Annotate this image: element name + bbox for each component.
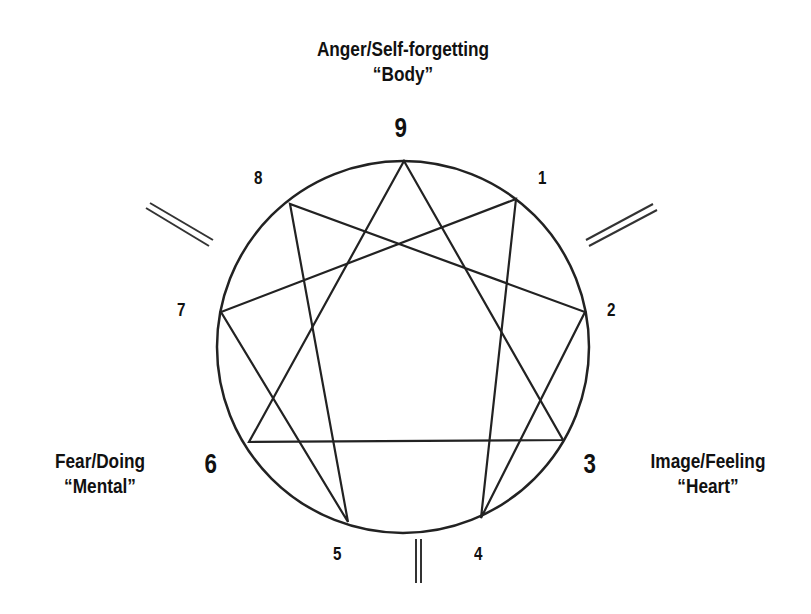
point-label-3: 3 — [584, 448, 596, 480]
enneagram-diagram — [0, 0, 811, 614]
center-label-heart-line1: Image/Feeling — [638, 448, 777, 473]
point-label-9: 9 — [395, 112, 407, 144]
center-label-mental-line2: “Mental” — [34, 473, 165, 498]
divider-bottom — [416, 539, 421, 583]
center-label-mental: Fear/Doing “Mental” — [34, 448, 165, 498]
point-label-2: 2 — [607, 299, 615, 321]
center-label-body-line1: Anger/Self-forgetting — [272, 36, 534, 61]
center-label-heart: Image/Feeling “Heart” — [638, 448, 777, 498]
point-label-1: 1 — [538, 167, 546, 189]
point-label-6: 6 — [205, 448, 217, 480]
point-label-4: 4 — [474, 543, 482, 565]
center-label-heart-line2: “Heart” — [638, 473, 777, 498]
center-label-body: Anger/Self-forgetting “Body” — [272, 36, 534, 86]
point-label-8: 8 — [254, 167, 262, 189]
divider-left — [146, 203, 213, 246]
hexad-1-4-2-8-5-7 — [221, 199, 585, 522]
center-label-mental-line1: Fear/Doing — [34, 448, 165, 473]
point-label-7: 7 — [177, 299, 185, 321]
point-label-5: 5 — [333, 543, 341, 565]
center-label-body-line2: “Body” — [272, 61, 534, 86]
enneagram-circle — [217, 161, 589, 533]
divider-right — [586, 204, 657, 246]
